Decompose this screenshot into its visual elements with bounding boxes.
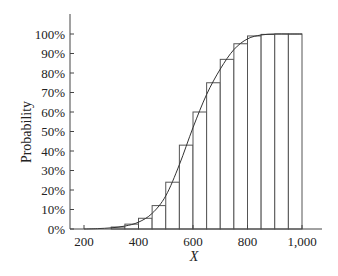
histogram-bar: [207, 83, 221, 229]
histogram-bar: [234, 44, 248, 229]
x-tick-label: 600: [183, 234, 203, 249]
histogram-bar: [220, 59, 234, 229]
bars: [111, 34, 302, 229]
histogram-bar: [152, 206, 166, 229]
y-tick-label: 30%: [41, 163, 65, 178]
histogram-bar: [261, 34, 275, 229]
y-tick-label: 40%: [41, 144, 65, 159]
histogram-bar: [179, 145, 193, 229]
histogram-bar: [288, 34, 302, 229]
y-tick-label: 10%: [41, 202, 65, 217]
y-tick-label: 20%: [41, 183, 65, 198]
x-axis-label: X: [189, 249, 199, 264]
x-tick-label: 800: [238, 234, 258, 249]
x-tick-label: 1,000: [287, 234, 316, 249]
histogram-bar: [139, 218, 153, 229]
histogram-bar: [166, 182, 180, 229]
x-tick-label: 200: [74, 234, 94, 249]
y-tick-label: 70%: [41, 85, 65, 100]
histogram-bar: [275, 34, 289, 229]
y-axis-label: Probability: [19, 101, 34, 163]
y-tick-label: 0%: [48, 222, 66, 237]
y-tick-label: 100%: [35, 27, 66, 42]
y-tick-label: 80%: [41, 66, 65, 81]
histogram-bar: [248, 36, 262, 229]
cdf-chart: 0%10%20%30%40%50%60%70%80%90%100% 200400…: [0, 0, 338, 276]
y-tick-label: 60%: [41, 105, 65, 120]
y-tick-label: 50%: [41, 124, 65, 139]
x-tick-label: 400: [129, 234, 149, 249]
y-tick-label: 90%: [41, 46, 65, 61]
y-ticks: 0%10%20%30%40%50%60%70%80%90%100%: [35, 27, 74, 237]
histogram-bar: [193, 112, 207, 229]
